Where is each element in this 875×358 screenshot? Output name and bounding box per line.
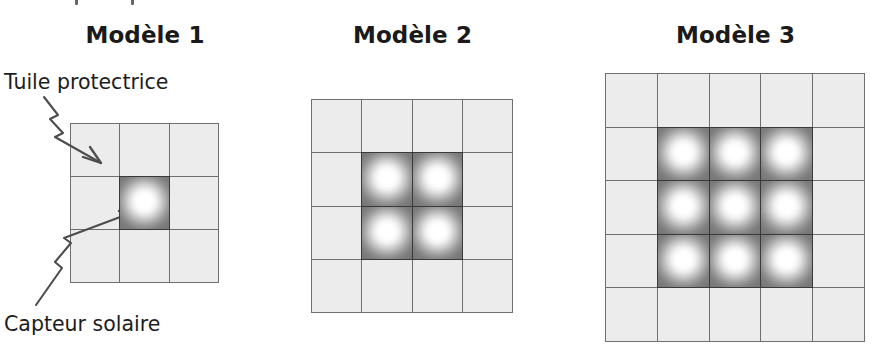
solar-collector <box>760 180 813 235</box>
solar-collector <box>657 127 710 182</box>
solar-collector <box>657 180 710 235</box>
solar-collector <box>412 152 463 206</box>
protective-tile <box>812 73 865 128</box>
protective-tile <box>169 229 219 283</box>
protective-tile <box>169 176 219 230</box>
protective-tile <box>412 259 463 313</box>
protective-tile <box>462 99 513 153</box>
protective-tile <box>70 176 120 230</box>
protective-tile <box>462 206 513 260</box>
model-3-grid <box>606 74 865 342</box>
solar-collector <box>709 127 762 182</box>
protective-tile <box>812 287 865 342</box>
solar-collector <box>412 206 463 260</box>
protective-tile <box>311 99 362 153</box>
solar-collector <box>760 234 813 289</box>
protective-tile <box>760 73 813 128</box>
protective-tile <box>812 234 865 289</box>
clipped-glyph-fragment <box>75 0 78 5</box>
protective-tile <box>169 123 219 177</box>
protective-tile <box>361 259 412 313</box>
clipped-glyph-fragment <box>131 0 134 5</box>
protective-tile <box>70 229 120 283</box>
protective-tile <box>709 287 762 342</box>
solar-collector <box>709 180 762 235</box>
protective-tile <box>657 73 710 128</box>
protective-tile <box>119 229 169 283</box>
solar-collector <box>361 152 412 206</box>
protective-tile <box>462 152 513 206</box>
protective-tile <box>605 287 658 342</box>
model-1-title: Modèle 1 <box>71 22 219 48</box>
protective-tile <box>311 152 362 206</box>
solar-collector <box>760 127 813 182</box>
solar-collector <box>657 234 710 289</box>
model-3-title: Modèle 3 <box>606 22 865 48</box>
solar-collector <box>709 234 762 289</box>
protective-tile <box>119 123 169 177</box>
model-2-title: Modèle 2 <box>312 22 513 48</box>
protective-tile <box>605 180 658 235</box>
model-1-grid <box>71 124 219 283</box>
annotation-label-protective-tile: Tuile protectrice <box>4 70 168 94</box>
protective-tile <box>605 127 658 182</box>
model-2-grid <box>312 100 513 313</box>
protective-tile <box>311 259 362 313</box>
protective-tile <box>70 123 120 177</box>
solar-collector <box>361 206 412 260</box>
protective-tile <box>361 99 412 153</box>
protective-tile <box>412 99 463 153</box>
clipped-text-above <box>0 0 875 7</box>
protective-tile <box>462 259 513 313</box>
protective-tile <box>709 73 762 128</box>
protective-tile <box>760 287 813 342</box>
protective-tile <box>812 180 865 235</box>
protective-tile <box>605 73 658 128</box>
solar-collector <box>119 176 169 230</box>
protective-tile <box>657 287 710 342</box>
protective-tile <box>605 234 658 289</box>
protective-tile <box>812 127 865 182</box>
annotation-label-solar-collector: Capteur solaire <box>4 312 160 336</box>
protective-tile <box>311 206 362 260</box>
